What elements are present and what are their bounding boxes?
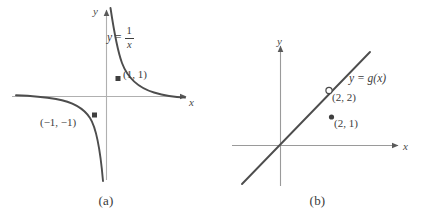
point-label-2-1: (2, 1) <box>334 118 358 129</box>
fraction: 1 x <box>125 26 134 50</box>
x-axis-label: x <box>189 97 194 108</box>
point-marker-neg1-neg1 <box>92 113 97 118</box>
panel-a-plot <box>0 0 212 215</box>
equation-label-y-equals-g-of-x: y = g(x) <box>349 73 386 85</box>
fraction-numerator: 1 <box>125 26 134 38</box>
y-axis-label: y <box>93 6 98 17</box>
x-axis-label: x <box>403 141 408 152</box>
point-marker-1-1 <box>116 76 121 81</box>
equation-equals-sign: = <box>115 32 122 44</box>
equation-label-y-equals-one-over-x: y = 1 x <box>107 26 134 50</box>
point-label-1-1: (1, 1) <box>123 69 147 80</box>
equation-lhs: y <box>107 32 112 44</box>
panel-a-caption: (a) <box>0 193 212 209</box>
point-label-neg1-neg1: (−1, −1) <box>40 117 76 128</box>
panel-b-plot <box>212 0 423 215</box>
panel-b: y x y = g(x) (2, 2) (2, 1) (b) <box>212 0 423 215</box>
panel-b-caption: (b) <box>212 193 423 209</box>
curve-left-branch <box>16 95 103 181</box>
fraction-denominator: x <box>125 39 134 51</box>
y-axis-label: y <box>277 36 282 47</box>
curve-right-branch <box>111 8 186 98</box>
point-label-2-2: (2, 2) <box>332 92 356 103</box>
figure-container: y x y = 1 x (1, 1) (−1, −1) (a) <box>0 0 423 215</box>
panel-a: y x y = 1 x (1, 1) (−1, −1) (a) <box>0 0 212 215</box>
